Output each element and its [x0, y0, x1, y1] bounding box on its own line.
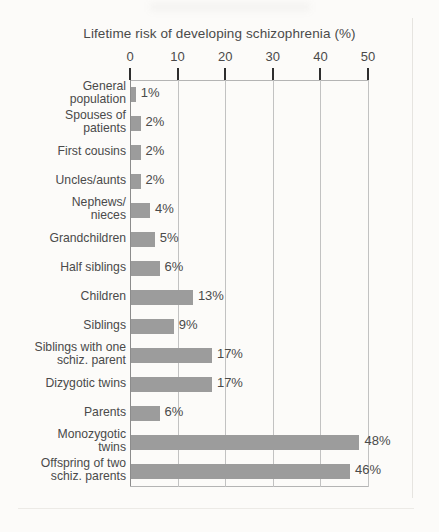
bar-row: Grandchildren5%: [0, 225, 439, 254]
category-label: Offspring of two schiz. parents: [0, 457, 126, 483]
category-label: Parents: [0, 406, 126, 419]
bar: [131, 319, 174, 334]
x-axis-tick-label-0: 0: [110, 49, 150, 64]
category-label: Dizygotic twins: [0, 377, 126, 390]
category-label: Nephews/ nieces: [0, 196, 126, 222]
bar-value-label: 2%: [146, 143, 165, 158]
bar-value-label: 5%: [160, 230, 179, 245]
bar: [131, 203, 150, 218]
bar-value-label: 17%: [217, 346, 243, 361]
category-label: First cousins: [0, 145, 126, 158]
category-label: General population: [0, 80, 126, 106]
category-label: Children: [0, 290, 126, 303]
page-edge-line-bottom: [18, 508, 414, 509]
category-label: Siblings: [0, 319, 126, 332]
bar-value-label: 13%: [198, 288, 224, 303]
x-axis-tick-50: [367, 68, 369, 80]
bar: [131, 290, 193, 305]
bar-value-label: 6%: [165, 259, 184, 274]
chart-title: Lifetime risk of developing schizophreni…: [0, 26, 439, 41]
bar: [131, 87, 136, 102]
x-axis-tick-label-50: 50: [348, 49, 388, 64]
bar-row: Dizygotic twins17%: [0, 370, 439, 399]
bar: [131, 377, 212, 392]
bar-row: Half siblings6%: [0, 254, 439, 283]
bar: [131, 406, 160, 421]
bar: [131, 261, 160, 276]
bar-row: Siblings9%: [0, 312, 439, 341]
bar-row: Uncles/aunts2%: [0, 167, 439, 196]
x-axis-tick-10: [177, 68, 179, 80]
bar-row: First cousins2%: [0, 138, 439, 167]
bar: [131, 174, 141, 189]
bar: [131, 145, 141, 160]
bar: [131, 464, 350, 479]
category-label: Spouses of patients: [0, 109, 126, 135]
bar-value-label: 46%: [355, 462, 381, 477]
scan-artifact: [150, 2, 310, 12]
x-axis-tick-30: [272, 68, 274, 80]
bar-value-label: 2%: [146, 114, 165, 129]
x-axis-tick-label-40: 40: [300, 49, 340, 64]
bar: [131, 348, 212, 363]
bar-row: Nephews/ nieces4%: [0, 196, 439, 225]
x-axis-tick-label-20: 20: [205, 49, 245, 64]
bar-value-label: 48%: [364, 433, 390, 448]
plot-frame-bottom: [130, 486, 368, 487]
x-axis-tick-20: [224, 68, 226, 80]
bar-row: Monozygotic twins48%: [0, 428, 439, 457]
category-label: Monozygotic twins: [0, 428, 126, 454]
category-label: Uncles/aunts: [0, 174, 126, 187]
category-label: Siblings with one schiz. parent: [0, 341, 126, 367]
bar-row: Siblings with one schiz. parent17%: [0, 341, 439, 370]
bar: [131, 232, 155, 247]
bar-value-label: 2%: [146, 172, 165, 187]
bar-value-label: 6%: [165, 404, 184, 419]
bar-row: Children13%: [0, 283, 439, 312]
bar-value-label: 17%: [217, 375, 243, 390]
bar-value-label: 1%: [141, 85, 160, 100]
bar-row: Parents6%: [0, 399, 439, 428]
bar: [131, 435, 359, 450]
bar-value-label: 4%: [155, 201, 174, 216]
x-axis-tick-0: [129, 68, 131, 80]
category-label: Grandchildren: [0, 232, 126, 245]
bar-row: General population1%: [0, 80, 439, 109]
x-axis-tick-label-10: 10: [158, 49, 198, 64]
x-axis-tick-label-30: 30: [253, 49, 293, 64]
x-axis-tick-40: [319, 68, 321, 80]
bar: [131, 116, 141, 131]
bar-row: Spouses of patients2%: [0, 109, 439, 138]
bar-value-label: 9%: [179, 317, 198, 332]
category-label: Half siblings: [0, 261, 126, 274]
bar-row: Offspring of two schiz. parents46%: [0, 457, 439, 486]
